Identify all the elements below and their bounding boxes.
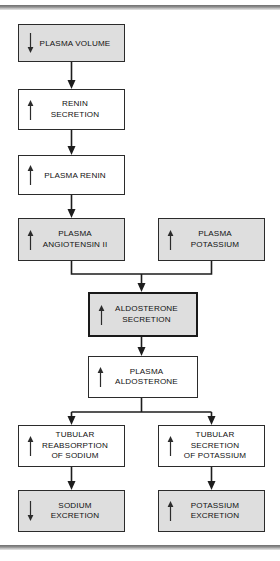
node-sodium-excretion[interactable]: SODIUM EXCRETION — [18, 490, 125, 532]
node-label: TUBULAR REABSORPTION OF SODIUM — [19, 430, 124, 461]
node-label: PLASMA POTASSIUM — [159, 229, 264, 250]
node-tubular-reabsorption-sodium[interactable]: TUBULAR REABSORPTION OF SODIUM — [18, 425, 125, 467]
node-plasma-angiotensin-ii[interactable]: PLASMA ANGIOTENSIN II — [18, 218, 125, 261]
node-label: POTASSIUM EXCRETION — [159, 501, 264, 522]
node-label: PLASMA VOLUME — [19, 38, 124, 49]
bottom-divider-rule — [0, 545, 280, 550]
node-plasma-aldosterone[interactable]: PLASMA ALDOSTERONE — [88, 356, 198, 398]
node-potassium-excretion[interactable]: POTASSIUM EXCRETION — [158, 490, 265, 532]
node-aldosterone-secretion[interactable]: ALDOSTERONE SECRETION — [88, 292, 198, 337]
node-renin-secretion[interactable]: RENIN SECRETION — [18, 89, 125, 130]
node-label: ALDOSTERONE SECRETION — [90, 304, 196, 325]
node-label: PLASMA RENIN — [19, 170, 124, 181]
top-divider-rule — [0, 5, 280, 10]
node-label: PLASMA ALDOSTERONE — [89, 367, 197, 388]
node-label: TUBULAR SECRETION OF POTASSIUM — [159, 430, 264, 461]
node-plasma-potassium[interactable]: PLASMA POTASSIUM — [158, 218, 265, 261]
node-label: PLASMA ANGIOTENSIN II — [19, 229, 124, 250]
node-label: SODIUM EXCRETION — [19, 501, 124, 522]
node-tubular-secretion-potassium[interactable]: TUBULAR SECRETION OF POTASSIUM — [158, 425, 265, 467]
node-plasma-volume[interactable]: PLASMA VOLUME — [18, 24, 125, 62]
flowchart-canvas: PLASMA VOLUME RENIN SECRETION PLASMA REN… — [0, 0, 280, 561]
edge-volume-to-renin-secretion — [0, 0, 280, 561]
node-label: RENIN SECRETION — [19, 99, 124, 120]
node-plasma-renin[interactable]: PLASMA RENIN — [18, 155, 125, 195]
